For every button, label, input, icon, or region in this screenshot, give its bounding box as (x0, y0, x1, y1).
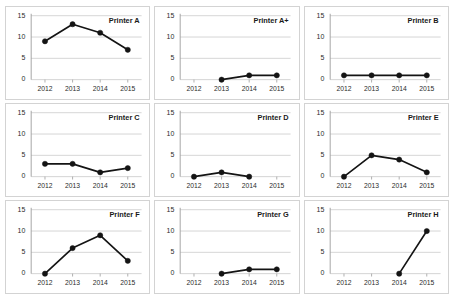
x-axis-tick-label: 2015 (270, 279, 285, 286)
panel-title: Printer B (407, 16, 438, 25)
data-point-marker (247, 73, 252, 78)
line-chart: 0510152012201320142015Printer A (6, 7, 149, 99)
x-axis-tick-label: 2012 (336, 85, 351, 92)
data-point-marker (396, 271, 401, 276)
x-axis-tick-label: 2014 (242, 279, 257, 286)
data-point-marker (219, 271, 224, 276)
x-axis-tick-label: 2014 (93, 85, 108, 92)
y-axis-tick-label: 10 (18, 33, 26, 40)
x-axis: 2012201320142015 (187, 274, 285, 286)
y-axis-tick-label: 0 (21, 172, 25, 179)
small-multiples-grid: 0510152012201320142015Printer A051015201… (0, 0, 454, 297)
y-axis-tick-label: 0 (171, 172, 175, 179)
x-axis-tick-label: 2014 (391, 279, 406, 286)
chart-panel-printer-e: 0510152012201320142015Printer E (304, 103, 449, 197)
y-axis-tick-label: 10 (316, 227, 324, 234)
series-line (344, 155, 427, 176)
x-axis-tick-label: 2014 (93, 182, 108, 189)
data-point-marker (125, 165, 130, 170)
data-point-marker (341, 174, 346, 179)
y-axis-tick-label: 15 (316, 12, 324, 19)
x-axis-tick-label: 2015 (419, 85, 434, 92)
line-chart: 0510152012201320142015Printer E (305, 104, 448, 196)
data-point-marker (219, 77, 224, 82)
x-axis-tick-label: 2014 (242, 85, 257, 92)
data-point-marker (247, 267, 252, 272)
y-axis-tick-label: 15 (18, 109, 26, 116)
line-chart: 0510152012201320142015Printer C (6, 104, 149, 196)
y-axis-tick-label: 0 (320, 172, 324, 179)
x-axis: 2012201320142015 (37, 274, 135, 286)
x-axis-tick-label: 2012 (37, 279, 52, 286)
y-axis-tick-label: 15 (316, 109, 324, 116)
y-axis-tick-label: 0 (320, 269, 324, 276)
data-point-marker (125, 47, 130, 52)
line-chart: 0510152012201320142015Printer G (155, 201, 298, 293)
y-axis-tick-label: 15 (316, 206, 324, 213)
x-axis-tick-label: 2012 (187, 85, 202, 92)
y-axis-tick-label: 15 (167, 206, 175, 213)
x-axis-tick-label: 2012 (336, 182, 351, 189)
x-axis-tick-label: 2015 (270, 182, 285, 189)
data-point-marker (396, 73, 401, 78)
y-axis-tick-label: 5 (320, 54, 324, 61)
chart-panel-printer-h: 0510152012201320142015Printer H (304, 200, 449, 294)
chart-panel-printer-b: 0510152012201320142015Printer B (304, 6, 449, 100)
data-point-marker (247, 174, 252, 179)
data-point-marker (70, 22, 75, 27)
y-axis-tick-label: 0 (21, 269, 25, 276)
y-axis-tick-label: 10 (167, 227, 175, 234)
x-axis: 2012201320142015 (336, 177, 434, 189)
panel-title: Printer A (109, 16, 140, 25)
y-axis-tick-label: 15 (167, 109, 175, 116)
y-axis-tick-label: 5 (171, 151, 175, 158)
data-point-marker (274, 267, 279, 272)
line-chart: 0510152012201320142015Printer A+ (155, 7, 298, 99)
x-axis: 2012201320142015 (187, 80, 285, 92)
y-axis-tick-label: 10 (167, 130, 175, 137)
x-axis-tick-label: 2015 (120, 279, 135, 286)
data-point-marker (125, 258, 130, 263)
y-axis-tick-label: 0 (171, 75, 175, 82)
x-axis-tick-label: 2012 (37, 182, 52, 189)
x-axis-tick-label: 2013 (65, 85, 80, 92)
x-axis-tick-label: 2015 (120, 182, 135, 189)
y-axis-tick-label: 10 (18, 130, 26, 137)
chart-panel-printer-a: 0510152012201320142015Printer A (5, 6, 150, 100)
panel-title: Printer H (407, 210, 438, 219)
x-axis-tick-label: 2012 (37, 85, 52, 92)
x-axis-tick-label: 2013 (214, 182, 229, 189)
chart-panel-printer-d: 0510152012201320142015Printer D (154, 103, 299, 197)
line-chart: 0510152012201320142015Printer F (6, 201, 149, 293)
panel-title: Printer F (109, 210, 140, 219)
chart-panel-printer-g: 0510152012201320142015Printer G (154, 200, 299, 294)
x-axis: 2012201320142015 (336, 80, 434, 92)
data-point-marker (42, 271, 47, 276)
y-axis-tick-label: 0 (21, 75, 25, 82)
data-point-marker (70, 245, 75, 250)
chart-panel-printer-c: 0510152012201320142015Printer C (5, 103, 150, 197)
panel-title: Printer D (258, 113, 289, 122)
line-chart: 0510152012201320142015Printer H (305, 201, 448, 293)
x-axis-tick-label: 2012 (187, 279, 202, 286)
data-point-marker (369, 153, 374, 158)
chart-panel-printer-f: 0510152012201320142015Printer F (5, 200, 150, 294)
y-axis-tick-label: 5 (320, 248, 324, 255)
y-axis-tick-label: 0 (320, 75, 324, 82)
data-point-marker (369, 73, 374, 78)
x-axis-tick-label: 2015 (419, 279, 434, 286)
y-axis-tick-label: 5 (320, 151, 324, 158)
data-point-marker (98, 233, 103, 238)
y-axis-tick-label: 5 (21, 54, 25, 61)
y-axis-tick-label: 10 (167, 33, 175, 40)
y-axis-tick-label: 10 (18, 227, 26, 234)
data-point-marker (274, 73, 279, 78)
data-point-marker (424, 73, 429, 78)
y-axis-tick-label: 15 (18, 206, 26, 213)
x-axis-tick-label: 2014 (93, 279, 108, 286)
x-axis: 2012201320142015 (336, 274, 434, 286)
x-axis-tick-label: 2015 (419, 182, 434, 189)
data-point-marker (98, 170, 103, 175)
x-axis: 2012201320142015 (37, 80, 135, 92)
data-point-marker (70, 161, 75, 166)
